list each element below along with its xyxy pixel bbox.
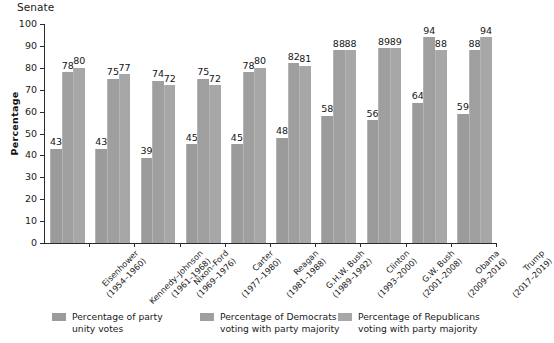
legend-item[interactable]: Percentage of Republicans voting with pa… [338, 311, 480, 334]
x-category-label: Trump(2017–2019) [503, 248, 554, 300]
bar-value-label: 94 [478, 26, 495, 36]
plot-area: 0102030405060708090100 43788043757739747… [44, 24, 496, 243]
bar [378, 48, 390, 243]
legend-swatch-icon [52, 313, 66, 321]
x-category-label: G.W. Bush(2001–2008) [412, 248, 464, 300]
y-tick-mark [40, 243, 44, 244]
bar [321, 116, 333, 243]
bar-value-label: 72 [161, 74, 178, 84]
y-tick-label: 100 [9, 19, 37, 29]
y-tick-label: 30 [9, 172, 37, 182]
y-tick-label: 60 [9, 107, 37, 117]
bar-value-label: 88 [342, 39, 359, 49]
bar [186, 144, 198, 243]
legend-label: Percentage of party unity votes [72, 311, 163, 334]
bar [299, 66, 311, 243]
y-axis-line [44, 24, 45, 243]
y-tick-label: 10 [9, 216, 37, 226]
y-tick-label: 50 [9, 129, 37, 139]
chart-legend: Percentage of party unity votesPercentag… [52, 311, 502, 341]
bar [119, 74, 131, 243]
bar-value-label: 94 [421, 26, 438, 36]
y-tick-mark [40, 199, 44, 200]
x-tick-mark [315, 243, 316, 247]
legend-item[interactable]: Percentage of party unity votes [52, 311, 163, 334]
y-tick-label: 70 [9, 85, 37, 95]
x-tick-mark [360, 243, 361, 247]
bar [276, 138, 288, 243]
bar [412, 103, 424, 243]
x-category-label: G.H.W. Bush(1989–1992) [322, 248, 374, 300]
bar [107, 79, 119, 243]
bar [367, 120, 379, 243]
y-tick-mark [40, 90, 44, 91]
bar [95, 149, 107, 243]
x-tick-mark [406, 243, 407, 247]
y-tick-mark [40, 24, 44, 25]
bar-value-label: 80 [71, 56, 88, 66]
bar [209, 85, 221, 243]
bar [469, 50, 481, 243]
bar [254, 68, 266, 243]
bar [345, 50, 357, 243]
legend-item[interactable]: Percentage of Democrats voting with part… [200, 311, 340, 334]
bar [62, 72, 74, 243]
bar [333, 50, 345, 243]
y-tick-mark [40, 155, 44, 156]
x-tick-mark [451, 243, 452, 247]
bar-value-label: 81 [297, 54, 314, 64]
bar-value-label: 72 [207, 74, 224, 84]
x-tick-mark [180, 243, 181, 247]
y-tick-label: 80 [9, 63, 37, 73]
y-tick-mark [40, 46, 44, 47]
bar [141, 158, 153, 243]
x-category-label: Eisenhower(1954–1960) [96, 248, 148, 300]
x-tick-mark [225, 243, 226, 247]
x-tick-mark [89, 243, 90, 247]
bar [390, 48, 402, 243]
bar [243, 72, 255, 243]
x-category-label: Reagan(1981–1988) [277, 248, 329, 300]
bar [231, 144, 243, 243]
x-tick-mark [134, 243, 135, 247]
x-category-label: Obama(2009–2016) [457, 248, 509, 300]
legend-label: Percentage of Republicans voting with pa… [358, 311, 480, 334]
legend-swatch-icon [338, 313, 352, 321]
x-category-label: Clinton(1993–2000) [367, 248, 419, 300]
x-tick-mark [270, 243, 271, 247]
y-tick-mark [40, 134, 44, 135]
bar [197, 79, 209, 243]
y-tick-mark [40, 112, 44, 113]
y-tick-label: 90 [9, 41, 37, 51]
chart-title: Senate [17, 1, 54, 13]
bar [457, 114, 469, 243]
bar [423, 37, 435, 243]
y-tick-mark [40, 177, 44, 178]
y-tick-mark [40, 221, 44, 222]
bar-value-label: 89 [387, 37, 404, 47]
bar [164, 85, 176, 243]
bar-value-label: 80 [252, 56, 269, 66]
bar-value-label: 77 [116, 63, 133, 73]
x-tick-mark [496, 243, 497, 247]
bar [480, 37, 492, 243]
bar [288, 63, 300, 243]
x-category-label: Carter(1977–1980) [231, 248, 283, 300]
y-tick-mark [40, 68, 44, 69]
legend-swatch-icon [200, 313, 214, 321]
y-tick-label: 20 [9, 194, 37, 204]
bar [152, 81, 164, 243]
legend-label: Percentage of Democrats voting with part… [220, 311, 340, 334]
y-tick-label: 40 [9, 150, 37, 160]
bar [73, 68, 85, 243]
y-tick-label: 0 [9, 238, 37, 248]
bar [435, 50, 447, 243]
bar-value-label: 88 [433, 39, 450, 49]
bar [50, 149, 62, 243]
